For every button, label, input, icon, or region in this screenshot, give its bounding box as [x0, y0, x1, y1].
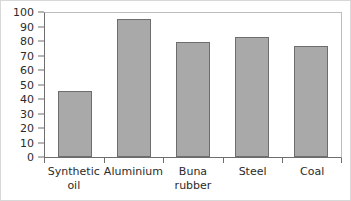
bars-layer — [45, 13, 341, 157]
bar-steel[interactable] — [235, 37, 269, 157]
x-slot: Steel — [223, 158, 283, 201]
x-slot: Coal — [282, 158, 342, 201]
x-tick-label-aluminium: Aluminium — [104, 165, 163, 201]
y-tick-label: 30 — [20, 108, 34, 119]
bar-buna-rubber[interactable] — [176, 42, 210, 157]
x-slot: Buna rubber — [163, 158, 223, 201]
y-tick-label: 70 — [20, 50, 34, 61]
x-tick-mark — [223, 158, 224, 163]
x-tick-label-coal: Coal — [300, 165, 324, 201]
bar-aluminium[interactable] — [117, 19, 151, 157]
plot-area — [44, 12, 342, 158]
bar-slot — [223, 13, 282, 157]
y-tick-label: 40 — [20, 94, 34, 105]
x-slot: Synthetic oil — [44, 158, 104, 201]
y-tick-label: 50 — [20, 79, 34, 90]
y-tick-label: 10 — [20, 137, 34, 148]
y-tick-label: 60 — [20, 65, 34, 76]
y-tick-label: 0 — [27, 152, 34, 163]
bar-slot — [282, 13, 341, 157]
y-tick-label: 80 — [20, 36, 34, 47]
y-axis: 100 90 80 70 60 50 40 30 20 10 0 — [0, 0, 44, 171]
y-tick-label: 90 — [20, 21, 34, 32]
x-tick-label-synthetic-oil: Synthetic oil — [48, 165, 100, 201]
y-tick-label: 20 — [20, 123, 34, 134]
x-tick-mark — [341, 158, 342, 163]
x-axis: Synthetic oil Aluminium Buna rubber Stee… — [44, 158, 342, 201]
bar-coal[interactable] — [294, 46, 328, 157]
bar-synthetic-oil[interactable] — [58, 91, 92, 157]
y-tick-label: 100 — [13, 7, 34, 18]
x-tick-label-buna-rubber: Buna rubber — [175, 165, 212, 201]
bar-slot — [45, 13, 104, 157]
x-tick-mark — [282, 158, 283, 163]
bar-slot — [163, 13, 222, 157]
x-slot: Aluminium — [104, 158, 164, 201]
x-tick-mark — [44, 158, 45, 163]
bar-slot — [104, 13, 163, 157]
x-tick-label-steel: Steel — [239, 165, 267, 201]
bar-chart: 100 90 80 70 60 50 40 30 20 10 0 — [0, 0, 351, 201]
x-tick-mark — [104, 158, 105, 163]
x-tick-mark — [163, 158, 164, 163]
